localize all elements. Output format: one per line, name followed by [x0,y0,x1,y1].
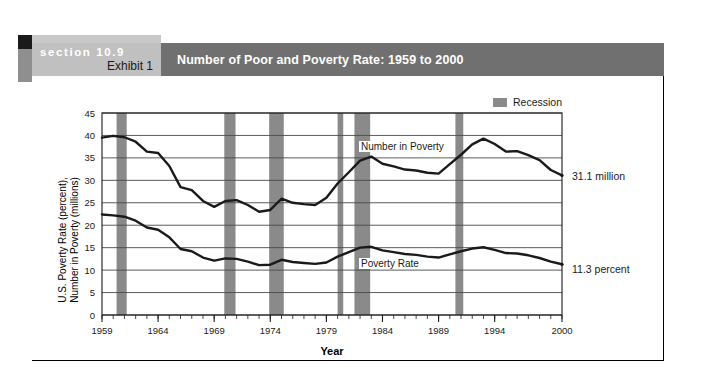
series-label-poverty-rate: Poverty Rate [359,258,421,269]
section-label-block: section 10.9 Exhibit 1 [32,43,161,76]
x-axis-label: Year [102,345,562,357]
header-corner-block [18,35,32,49]
y-axis-label-line1: U.S. Poverty Rate (percent), [57,177,68,303]
y-axis-label-line2: Number in Poverty (millions) [69,177,80,303]
exhibit-number: Exhibit 1 [32,59,153,73]
section-number: section 10.9 [32,46,153,59]
endpoint-label-rate: 11.3 percent [572,263,630,275]
title-bar: Number of Poor and Poverty Rate: 1959 to… [161,43,664,76]
legend-label-recession: Recession [513,96,562,108]
endpoint-label-number: 31.1 million [572,170,625,182]
exhibit-figure: section 10.9 Exhibit 1 Number of Poor an… [0,0,702,387]
y-axis-label: U.S. Poverty Rate (percent), Number in P… [32,100,62,320]
header-side-strip [18,49,32,82]
chart-panel [32,76,664,361]
legend: Recession [493,96,562,108]
series-label-number-in-poverty: Number in Poverty [359,141,446,152]
recession-swatch-icon [493,98,507,107]
page-title: Number of Poor and Poverty Rate: 1959 to… [161,53,464,67]
